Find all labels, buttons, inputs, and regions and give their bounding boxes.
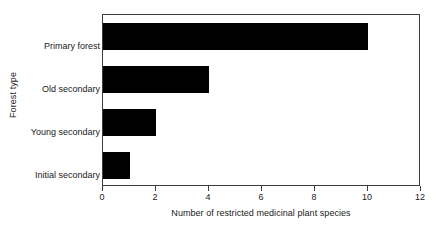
x-tick-mark-8 xyxy=(314,186,315,191)
x-tick-mark-6 xyxy=(261,186,262,191)
bar-row-primary-forest xyxy=(103,15,419,58)
x-tick-label-10: 10 xyxy=(362,192,372,202)
bar-primary-forest xyxy=(103,23,368,50)
x-tick-label-6: 6 xyxy=(258,192,263,202)
x-axis-ticks: 024681012 xyxy=(102,186,420,206)
bar-row-old-secondary xyxy=(103,58,419,101)
x-tick-mark-0 xyxy=(102,186,103,191)
bar-row-young-secondary xyxy=(103,101,419,144)
bar-old-secondary xyxy=(103,66,209,93)
bar-row-initial-secondary xyxy=(103,144,419,187)
bar-chart-figure: Forest type Primary forest Old secondary… xyxy=(0,0,436,230)
x-tick-label-0: 0 xyxy=(99,192,104,202)
y-tick-label-young-secondary: Young secondary xyxy=(4,127,100,137)
bar-initial-secondary xyxy=(103,152,130,179)
x-tick-mark-4 xyxy=(208,186,209,191)
x-tick-mark-12 xyxy=(420,186,421,191)
x-tick-label-2: 2 xyxy=(152,192,157,202)
y-tick-label-initial-secondary: Initial secondary xyxy=(4,170,100,180)
x-tick-mark-10 xyxy=(367,186,368,191)
plot-area xyxy=(102,14,420,186)
x-tick-label-4: 4 xyxy=(205,192,210,202)
y-axis-tick-labels: Primary forest Old secondary Young secon… xyxy=(0,14,100,186)
y-tick-label-old-secondary: Old secondary xyxy=(4,84,100,94)
x-tick-mark-2 xyxy=(155,186,156,191)
bar-young-secondary xyxy=(103,109,156,136)
x-tick-label-12: 12 xyxy=(415,192,425,202)
scan-artifact-strip xyxy=(0,0,436,6)
y-tick-label-primary-forest: Primary forest xyxy=(4,41,100,51)
x-tick-label-8: 8 xyxy=(311,192,316,202)
x-axis-title: Number of restricted medicinal plant spe… xyxy=(102,208,420,218)
